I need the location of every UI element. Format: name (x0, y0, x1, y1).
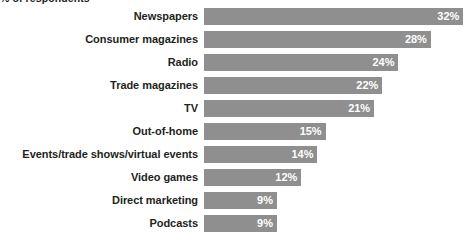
bar-value-label: 15% (300, 123, 326, 140)
category-label: Video games (131, 169, 198, 186)
bar-value-label: 14% (292, 146, 318, 163)
bar-track: 9% (204, 192, 468, 209)
bar: 21% (204, 100, 374, 117)
category-label: Podcasts (149, 215, 198, 232)
bar-track: 32% (204, 8, 468, 25)
chart-row: Direct marketing 9% (0, 192, 468, 215)
chart-row: Events/trade shows/virtual events 14% (0, 146, 468, 169)
chart-row: Consumer magazines 28% (0, 31, 468, 54)
category-label: Trade magazines (110, 77, 198, 94)
bar-value-label: 28% (405, 31, 431, 48)
bar-track: 28% (204, 31, 468, 48)
bar-value-label: 21% (348, 100, 374, 117)
bar: 32% (204, 8, 463, 25)
bar-track: 9% (204, 215, 468, 232)
bar: 24% (204, 54, 398, 71)
chart-row: Radio 24% (0, 54, 468, 77)
bar-value-label: 24% (373, 54, 399, 71)
category-label: Consumer magazines (85, 31, 198, 48)
chart-row: Out-of-home 15% (0, 123, 468, 146)
category-label: Events/trade shows/virtual events (22, 146, 198, 163)
bar-value-label: 32% (437, 8, 463, 25)
bar-track: 14% (204, 146, 468, 163)
bar-track: 21% (204, 100, 468, 117)
category-label: Radio (168, 54, 198, 71)
bar: 9% (204, 215, 277, 232)
bar-track: 15% (204, 123, 468, 140)
bar-value-label: 9% (257, 192, 277, 209)
bar-value-label: 9% (257, 215, 277, 232)
bar: 9% (204, 192, 277, 209)
bar-value-label: 12% (275, 169, 301, 186)
chart-row: Podcasts 9% (0, 215, 468, 238)
bar-track: 22% (204, 77, 468, 94)
category-label: Out-of-home (133, 123, 198, 140)
bar: 14% (204, 146, 317, 163)
bar: 28% (204, 31, 431, 48)
category-label: Newspapers (134, 8, 198, 25)
category-label: TV (184, 100, 198, 117)
chart-plot-area: Newspapers 32% Consumer magazines 28% Ra… (0, 8, 468, 244)
axis-note: % of respondents (0, 0, 200, 4)
bar-track: 24% (204, 54, 468, 71)
bar: 12% (204, 169, 301, 186)
chart-row: Trade magazines 22% (0, 77, 468, 100)
chart-row: TV 21% (0, 100, 468, 123)
bar-value-label: 22% (356, 77, 382, 94)
bar: 22% (204, 77, 382, 94)
category-label: Direct marketing (112, 192, 198, 209)
bar: 15% (204, 123, 326, 140)
bar-chart: % of respondents Newspapers 32% Consumer… (0, 0, 468, 244)
chart-row: Video games 12% (0, 169, 468, 192)
chart-row: Newspapers 32% (0, 8, 468, 31)
bar-track: 12% (204, 169, 468, 186)
